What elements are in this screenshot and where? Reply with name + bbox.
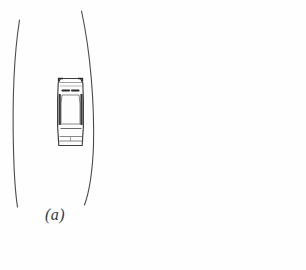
car-left-side-shading [59,94,61,125]
figure-caption: (a) [0,206,110,224]
figure-container: (a) [0,0,306,270]
car-roof-outline [61,95,80,124]
left-lane-line [13,20,19,207]
figure-illustration [0,0,306,270]
car-right-side-shading [80,94,82,125]
car-top-view [58,79,84,146]
